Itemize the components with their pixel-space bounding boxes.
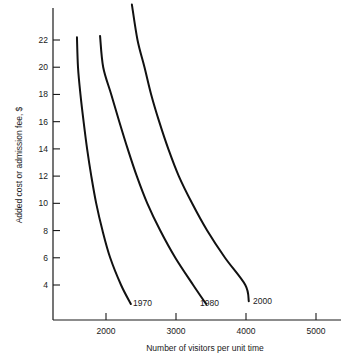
y-tick-label: 4 [43, 280, 48, 290]
chart-container: 46810121416182022 2000300040005000 19701… [0, 0, 347, 360]
data-curve-1980 [100, 36, 206, 304]
y-tick-label: 20 [39, 62, 49, 72]
y-tick-label: 22 [39, 35, 49, 45]
y-tick-label: 6 [43, 253, 48, 263]
y-axis-title: Added cost or admission fee, $ [14, 106, 24, 223]
data-curve-2000 [132, 5, 249, 302]
y-tick-label: 12 [39, 171, 49, 181]
x-tick-label: 2000 [97, 326, 116, 336]
series-label-1970: 1970 [133, 298, 152, 308]
y-tick-label: 16 [39, 117, 49, 127]
series-label-group: 197019802000 [133, 296, 272, 308]
axes-group [53, 8, 341, 320]
series-label-1980: 1980 [200, 298, 219, 308]
data-curves-group [77, 5, 249, 304]
y-tick-label: 8 [43, 226, 48, 236]
x-axis-title: Number of visitors per unit time [146, 343, 264, 353]
x-tick-label: 5000 [307, 326, 326, 336]
x-axis-ticks: 2000300040005000 [97, 313, 326, 336]
data-curve-1970 [77, 37, 131, 304]
x-tick-label: 4000 [237, 326, 256, 336]
chart-plot-area: 46810121416182022 2000300040005000 19701… [0, 0, 347, 360]
series-label-2000: 2000 [253, 296, 272, 306]
y-tick-label: 14 [39, 144, 49, 154]
y-tick-label: 18 [39, 89, 49, 99]
y-tick-label: 10 [39, 198, 49, 208]
y-axis-ticks: 46810121416182022 [39, 35, 60, 290]
x-tick-label: 3000 [167, 326, 186, 336]
